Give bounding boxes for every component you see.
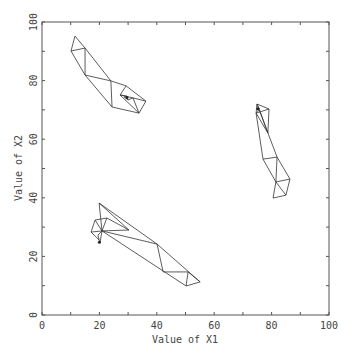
cluster-edge (139, 101, 146, 113)
cluster-edge (91, 220, 95, 232)
y-tick-label: 0 (28, 312, 39, 318)
cluster-edge (120, 95, 139, 113)
cluster-edge (120, 86, 126, 95)
cluster-edge (276, 182, 286, 195)
x-tick-label: 0 (39, 320, 45, 331)
cluster-edge (273, 195, 286, 198)
cluster-edge (85, 75, 112, 107)
cluster-edge (102, 218, 107, 231)
cluster-edge (286, 179, 290, 195)
x-tick-label: 100 (320, 320, 338, 331)
dense-point (125, 96, 128, 99)
cluster-edge (111, 81, 112, 107)
cluster-edge (273, 182, 276, 198)
y-tick-label: 40 (28, 192, 39, 204)
y-tick-label: 60 (28, 133, 39, 145)
scatter-chart: 020406080100 020406080100 Value of X1 Va… (0, 0, 351, 357)
y-axis-title: Value of X2 (13, 135, 24, 201)
dense-point (256, 107, 259, 110)
cluster-edge (91, 231, 102, 232)
cluster-edge (268, 109, 269, 133)
cluster-edge (133, 98, 139, 113)
cluster-edge (111, 81, 126, 86)
x-axis-title: Value of X1 (152, 334, 218, 345)
cluster-edge (128, 98, 133, 100)
cluster-edge (112, 107, 139, 113)
dense-point (98, 241, 101, 244)
x-axis: 020406080100 (39, 22, 338, 331)
x-tick-label: 80 (266, 320, 278, 331)
cluster-edge (256, 113, 263, 159)
y-tick-label: 80 (28, 75, 39, 87)
cluster-edge (75, 36, 85, 48)
cluster-upper-left (71, 36, 146, 113)
cluster-lower-left (91, 203, 200, 286)
y-tick-label: 100 (28, 13, 39, 31)
x-tick-label: 60 (208, 320, 220, 331)
cluster-edge (263, 157, 277, 159)
cluster-edge (188, 272, 200, 282)
x-tick-label: 20 (93, 320, 105, 331)
x-tick-label: 40 (151, 320, 163, 331)
cluster-edge (71, 48, 85, 51)
series-layer (71, 36, 290, 286)
cluster-edge (276, 179, 290, 182)
cluster-edge (186, 272, 188, 286)
cluster-edge (277, 157, 290, 179)
y-tick-label: 20 (28, 250, 39, 262)
cluster-edge (71, 36, 75, 51)
cluster-edge (99, 203, 157, 244)
cluster-edge (263, 159, 276, 182)
cluster-edge (71, 51, 85, 75)
cluster-edge (102, 230, 129, 231)
cluster-edge (102, 231, 157, 244)
cluster-edge (276, 157, 277, 182)
cluster-right (256, 104, 290, 198)
cluster-edge (186, 282, 200, 286)
